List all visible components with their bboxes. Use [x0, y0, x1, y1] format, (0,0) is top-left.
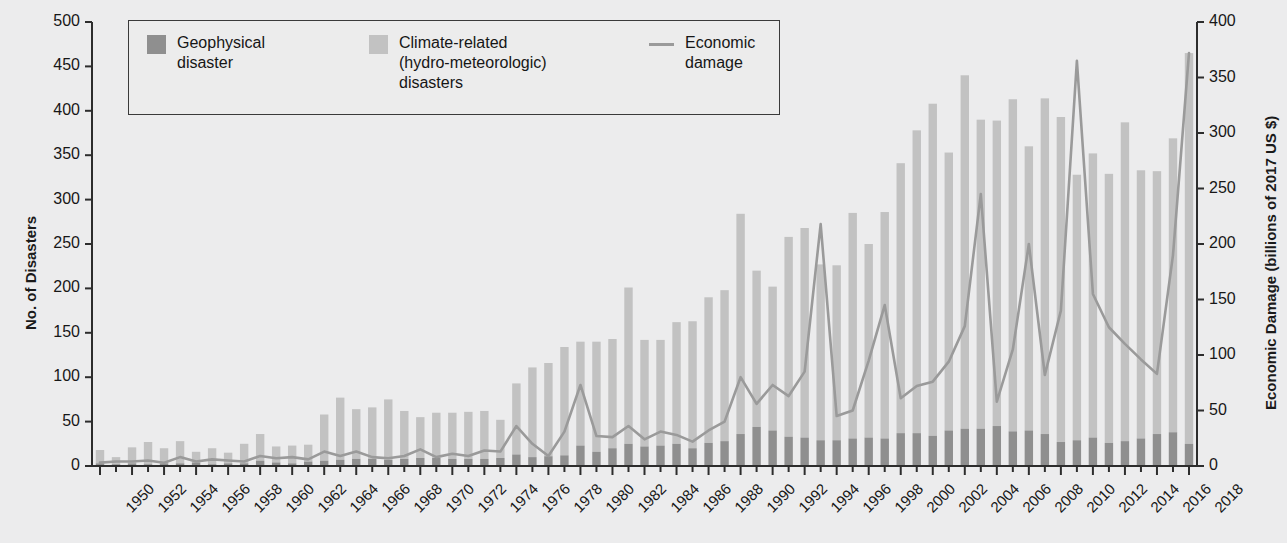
bar-geophysical-1974 [480, 459, 488, 466]
bar-geophysical-2003 [945, 430, 953, 466]
legend-item-economic[interactable]: Economicdamage [649, 33, 755, 73]
bar-geophysical-1980 [576, 446, 584, 466]
left-tick-label-200: 200 [53, 278, 80, 296]
bar-geophysical-1976 [512, 454, 520, 466]
bar-geophysical-1985 [656, 446, 664, 466]
bar-climate-1985 [656, 340, 664, 446]
bar-geophysical-1991 [752, 427, 760, 466]
left-axis-title: No. of Disasters [22, 216, 39, 330]
bar-climate-1969 [400, 411, 408, 459]
geophysical-swatch [147, 35, 166, 54]
bar-climate-1982 [608, 339, 616, 448]
bar-geophysical-1972 [448, 459, 456, 466]
bar-climate-2005 [977, 120, 985, 429]
legend-item-geophysical[interactable]: Geophysicaldisaster [147, 33, 265, 73]
right-tick-label-350: 350 [1209, 68, 1236, 86]
bar-geophysical-1997 [848, 438, 856, 466]
bar-geophysical-2004 [961, 429, 969, 466]
bar-climate-1972 [448, 413, 456, 459]
bar-climate-2014 [1121, 122, 1129, 441]
bar-climate-1971 [432, 413, 440, 458]
bar-geophysical-1984 [640, 446, 648, 466]
right-tick-label-50: 50 [1209, 401, 1227, 419]
bar-geophysical-2010 [1057, 442, 1065, 466]
left-tick-label-500: 500 [53, 12, 80, 30]
bar-climate-2016 [1153, 171, 1161, 434]
bar-series-group [96, 53, 1193, 466]
left-tick-label-300: 300 [53, 190, 80, 208]
bar-geophysical-2000 [897, 433, 905, 466]
disasters-and-economic-damage-chart: No. of Disasters Economic Damage (billio… [0, 0, 1287, 543]
right-tick-label-250: 250 [1209, 179, 1236, 197]
bar-climate-1983 [624, 288, 632, 444]
bar-climate-1995 [816, 264, 824, 440]
bar-climate-2013 [1105, 174, 1113, 443]
bar-climate-1973 [464, 412, 472, 459]
chart-legend: GeophysicaldisasterClimate-related(hydro… [128, 20, 780, 115]
bar-geophysical-1988 [704, 443, 712, 466]
bar-climate-2015 [1137, 170, 1145, 438]
bar-climate-2009 [1041, 98, 1049, 434]
bar-geophysical-1989 [720, 441, 728, 466]
bar-geophysical-2014 [1121, 441, 1129, 466]
right-tick-label-0: 0 [1209, 456, 1218, 474]
bar-geophysical-2005 [977, 429, 985, 466]
bar-geophysical-2016 [1153, 434, 1161, 466]
bar-geophysical-2006 [993, 426, 1001, 466]
bar-climate-1988 [704, 297, 712, 443]
bar-geophysical-1979 [560, 455, 568, 466]
bar-geophysical-1993 [784, 437, 792, 466]
legend-label: Geophysicaldisaster [177, 33, 265, 73]
bar-climate-1955 [176, 441, 184, 463]
bar-geophysical-2011 [1073, 440, 1081, 466]
bar-climate-2004 [961, 75, 969, 428]
left-tick-label-0: 0 [71, 456, 80, 474]
bar-geophysical-1996 [832, 440, 840, 466]
bar-climate-1976 [512, 383, 520, 454]
left-tick-label-400: 400 [53, 101, 80, 119]
bar-geophysical-1994 [800, 438, 808, 466]
bar-climate-2007 [1009, 99, 1017, 431]
legend-label: Climate-related(hydro-meteorologic)disas… [399, 33, 547, 93]
left-tick-label-100: 100 [53, 367, 80, 385]
bar-geophysical-1987 [688, 448, 696, 466]
bar-geophysical-1990 [736, 434, 744, 466]
bar-climate-1961 [272, 446, 280, 462]
bar-climate-1987 [688, 321, 696, 448]
climate-swatch [369, 35, 388, 54]
bar-climate-1986 [672, 322, 680, 444]
bar-geophysical-1999 [881, 438, 889, 466]
left-tick-label-350: 350 [53, 145, 80, 163]
bar-geophysical-2008 [1025, 430, 1033, 466]
bar-geophysical-1970 [416, 458, 424, 466]
bar-geophysical-1978 [544, 456, 552, 466]
bar-geophysical-1995 [816, 440, 824, 466]
right-tick-label-150: 150 [1209, 290, 1236, 308]
bar-geophysical-1975 [496, 458, 504, 466]
bar-climate-1967 [368, 407, 376, 459]
bar-geophysical-1998 [865, 438, 873, 466]
bar-geophysical-2002 [929, 436, 937, 466]
bar-climate-1968 [384, 399, 392, 459]
bar-climate-1993 [784, 237, 792, 437]
bar-geophysical-1986 [672, 444, 680, 466]
bar-climate-2002 [929, 104, 937, 436]
bar-climate-1998 [865, 244, 873, 438]
bar-geophysical-2007 [1009, 431, 1017, 466]
right-tick-label-100: 100 [1209, 345, 1236, 363]
bar-climate-1957 [208, 448, 216, 464]
bar-geophysical-2013 [1105, 443, 1113, 466]
bar-geophysical-1983 [624, 444, 632, 466]
bar-climate-2018 [1185, 53, 1193, 444]
left-tick-label-50: 50 [62, 412, 80, 430]
bar-geophysical-1977 [528, 457, 536, 466]
bar-climate-1992 [768, 287, 776, 431]
right-axis-title: Economic Damage (billions of 2017 US $) [1262, 116, 1279, 410]
legend-item-climate[interactable]: Climate-related(hydro-meteorologic)disas… [369, 33, 547, 93]
bar-geophysical-2012 [1089, 438, 1097, 466]
bar-geophysical-1966 [352, 459, 360, 466]
bar-geophysical-1992 [768, 430, 776, 466]
bar-geophysical-2017 [1169, 432, 1177, 466]
left-tick-label-450: 450 [53, 56, 80, 74]
bar-geophysical-2018 [1185, 444, 1193, 466]
